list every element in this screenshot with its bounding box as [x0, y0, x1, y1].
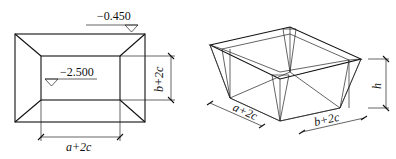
- dimension-a-plus-2c: a+2c: [38, 100, 123, 154]
- elevation-marker-top: −0.450: [86, 9, 138, 32]
- plan-width-label: a+2c: [66, 140, 92, 154]
- isometric-view: a+2c b+2c h: [207, 27, 389, 134]
- iso-dimension-b: b+2c: [299, 110, 367, 134]
- plan-view: −0.450 −2.500 a+2c b+2c: [15, 9, 175, 154]
- iso-width-a-label: a+2c: [231, 100, 261, 123]
- iso-depth-label: h: [370, 83, 384, 89]
- dimension-b-plus-2c: b+2c: [120, 53, 175, 103]
- top-elevation-label: −0.450: [97, 9, 131, 23]
- iso-dimension-h: h: [368, 56, 389, 111]
- foundation-pit-diagram: −0.450 −2.500 a+2c b+2c: [0, 0, 396, 159]
- bottom-elevation-label: −2.500: [60, 65, 94, 79]
- iso-dimension-a: a+2c: [207, 100, 265, 128]
- plan-height-label: b+2c: [152, 66, 166, 92]
- elevation-marker-bottom: −2.500: [45, 65, 97, 86]
